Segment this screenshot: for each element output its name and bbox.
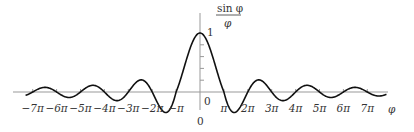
- y-axis-label-denominator: φ: [224, 17, 232, 29]
- x-tick-label: −3π: [117, 102, 140, 114]
- sinc-chart: −7π−6π−5π−4π−3π−2π−ππ2π3π4π5π6π7π 1 0 0 …: [0, 0, 414, 132]
- x-tick-label: −7π: [22, 102, 45, 114]
- x-tick-label: −2π: [141, 102, 164, 114]
- x-tick-label: −6π: [45, 102, 68, 114]
- x-tick-label: 5π: [313, 102, 328, 114]
- y-axis-label-numerator: sin φ: [217, 2, 243, 14]
- x-axis-label: φ: [388, 103, 396, 115]
- x-tick-label: 6π: [337, 102, 352, 114]
- axes: [13, 13, 388, 110]
- x-tick-label: 4π: [288, 102, 304, 114]
- y-axis-label: sin φ φ: [216, 2, 243, 29]
- y-tick-label-one: 1: [207, 26, 214, 38]
- origin-label-right: 0: [204, 95, 211, 107]
- x-tick-labels: −7π−6π−5π−4π−3π−2π−ππ2π3π4π5π6π7π: [22, 102, 376, 114]
- x-tick-label: −4π: [93, 102, 116, 114]
- x-tick-label: −5π: [69, 102, 92, 114]
- x-tick-label: 7π: [361, 102, 376, 114]
- x-tick-label: −π: [168, 102, 185, 114]
- origin-label-below: 0: [197, 115, 204, 127]
- x-tick-label: 2π: [240, 102, 256, 114]
- x-tick-label: π: [219, 102, 228, 114]
- x-tick-label: 3π: [265, 102, 280, 114]
